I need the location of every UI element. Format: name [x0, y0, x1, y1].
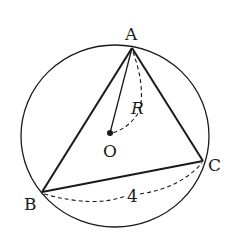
bc-length-label: 4 [127, 186, 138, 206]
vertex-label-c: C [208, 155, 221, 175]
side-bc [42, 161, 203, 192]
side-ab [42, 48, 132, 192]
radius-label-r: R [130, 98, 144, 118]
bc-dimension-arc [44, 163, 202, 202]
center-label-o: O [103, 141, 117, 161]
vertex-label-b: B [24, 194, 37, 214]
radius-oa [110, 48, 132, 133]
vertex-label-a: A [124, 24, 138, 44]
geometry-figure: A B C O R 4 [0, 0, 238, 243]
center-point [107, 130, 113, 136]
radius-dimension-arc [112, 52, 141, 133]
